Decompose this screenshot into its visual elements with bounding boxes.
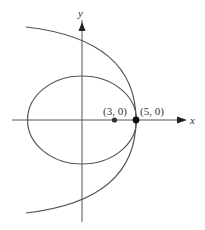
vertex-point xyxy=(133,117,140,124)
focus-point xyxy=(112,117,117,122)
focus-point-label: (3, 0) xyxy=(103,105,127,118)
x-axis-label: x xyxy=(189,114,195,126)
x-axis-arrow-icon xyxy=(177,117,187,124)
vertex-point-label: (5, 0) xyxy=(140,105,164,118)
y-axis-arrow-icon xyxy=(79,22,86,31)
y-axis-label: y xyxy=(77,7,83,19)
conic-diagram: x y (3, 0) (5, 0) xyxy=(0,0,205,230)
